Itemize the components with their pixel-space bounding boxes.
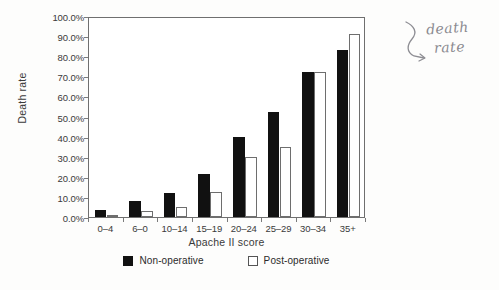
y-axis-label: Death rate bbox=[16, 50, 28, 146]
bar-post-operative bbox=[245, 157, 257, 217]
bar-non-operative bbox=[233, 137, 245, 217]
bar-post-operative bbox=[210, 192, 222, 217]
caption-sliver bbox=[6, 282, 256, 289]
x-tick-label: 25–29 bbox=[265, 223, 291, 234]
bar-group bbox=[228, 18, 263, 217]
bar-non-operative bbox=[337, 50, 349, 217]
bar-non-operative bbox=[164, 193, 176, 217]
bars-container bbox=[89, 18, 364, 217]
bar-post-operative bbox=[107, 215, 119, 217]
y-tick-label: 20.0% bbox=[58, 172, 84, 183]
chart-figure: Death rate 0.0%10.0%20.0%30.0%40.0%50.0%… bbox=[0, 0, 499, 290]
bar-group bbox=[331, 18, 366, 217]
x-tick-mark bbox=[192, 218, 193, 222]
y-tick-label: 60.0% bbox=[58, 92, 84, 103]
x-tick-mark bbox=[261, 218, 262, 222]
y-axis-tick-labels: 0.0%10.0%20.0%30.0%40.0%50.0%60.0%70.0%8… bbox=[34, 10, 84, 225]
x-tick-mark bbox=[123, 218, 124, 222]
bar-group bbox=[158, 18, 193, 217]
x-tick-mark bbox=[227, 218, 228, 222]
x-tick-label: 10–14 bbox=[162, 223, 188, 234]
bar-post-operative bbox=[280, 147, 292, 217]
bar-non-operative bbox=[198, 174, 210, 217]
handwritten-arrow-icon bbox=[398, 12, 494, 74]
y-tick-label: 10.0% bbox=[58, 192, 84, 203]
y-tick-label: 40.0% bbox=[58, 132, 84, 143]
bar-group bbox=[262, 18, 297, 217]
x-tick-mark bbox=[88, 218, 89, 222]
handwritten-text-line2: rate bbox=[434, 38, 466, 56]
x-tick-label: 35+ bbox=[340, 223, 356, 234]
bar-post-operative bbox=[314, 72, 326, 217]
y-tick-label: 100.0% bbox=[52, 12, 84, 23]
y-tick-label: 80.0% bbox=[58, 52, 84, 63]
bar-group bbox=[124, 18, 159, 217]
x-tick-label: 0–4 bbox=[98, 223, 114, 234]
bar-group bbox=[297, 18, 332, 217]
bar-non-operative bbox=[129, 201, 141, 217]
y-tick-label: 30.0% bbox=[58, 152, 84, 163]
bar-non-operative bbox=[268, 112, 280, 217]
x-axis-label: Apache II score bbox=[88, 236, 365, 248]
legend-label: Non-operative bbox=[139, 255, 203, 266]
bar-non-operative bbox=[302, 72, 314, 217]
x-tick-label: 20–24 bbox=[231, 223, 257, 234]
legend-item: Non-operative bbox=[123, 255, 203, 266]
legend-label: Post-operative bbox=[264, 255, 330, 266]
handwritten-text-line1: death bbox=[425, 19, 469, 38]
y-tick-label: 70.0% bbox=[58, 72, 84, 83]
x-tick-mark bbox=[365, 218, 366, 222]
handwritten-annotation: death rate bbox=[398, 12, 494, 74]
legend-swatch-post-operative bbox=[248, 256, 258, 266]
bar-group bbox=[193, 18, 228, 217]
chart-legend: Non-operativePost-operative bbox=[88, 255, 365, 266]
bar-post-operative bbox=[176, 207, 188, 217]
legend-item: Post-operative bbox=[248, 255, 330, 266]
x-tick-mark bbox=[296, 218, 297, 222]
y-tick-label: 50.0% bbox=[58, 112, 84, 123]
x-tick-mark bbox=[157, 218, 158, 222]
x-tick-label: 6–0 bbox=[132, 223, 148, 234]
legend-swatch-non-operative bbox=[123, 256, 133, 266]
plot-area bbox=[88, 17, 365, 218]
x-tick-label: 30–34 bbox=[300, 223, 326, 234]
bar-non-operative bbox=[95, 210, 107, 217]
bar-group bbox=[89, 18, 124, 217]
bar-post-operative bbox=[141, 211, 153, 217]
x-tick-label: 15–19 bbox=[196, 223, 222, 234]
bar-post-operative bbox=[349, 34, 361, 217]
y-tick-label: 0.0% bbox=[63, 213, 84, 224]
x-tick-mark bbox=[330, 218, 331, 222]
y-tick-label: 90.0% bbox=[58, 32, 84, 43]
